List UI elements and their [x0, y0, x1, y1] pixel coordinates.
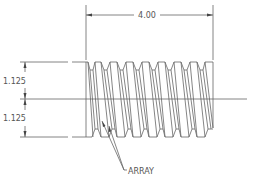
arrow-down-icon — [24, 93, 27, 99]
vertical-dimension — [24, 62, 27, 137]
arrow-up-icon — [24, 62, 27, 68]
leader-line-1 — [102, 121, 124, 170]
thread-helix-lines — [88, 62, 213, 137]
array-leader — [102, 121, 127, 170]
leader-arrow-icon — [102, 121, 106, 127]
vertical-extension-lines — [20, 62, 86, 137]
arrow-down-icon — [24, 131, 27, 137]
arrow-up-icon — [24, 99, 27, 105]
cad-drawing: 4.00 1.125 1.125 ARRAY — [0, 0, 257, 187]
arrow-right-icon — [207, 14, 213, 17]
arrow-left-icon — [86, 14, 92, 17]
upper-radius-label: 1.125 — [3, 77, 26, 86]
drawing-canvas: 4.00 1.125 1.125 ARRAY — [0, 0, 257, 187]
lower-radius-label: 1.125 — [3, 114, 26, 123]
length-dimension-label: 4.00 — [138, 11, 156, 20]
leader-arrow-icon — [109, 126, 112, 132]
array-label: ARRAY — [128, 167, 154, 176]
bottom-thread-profile — [86, 129, 213, 137]
